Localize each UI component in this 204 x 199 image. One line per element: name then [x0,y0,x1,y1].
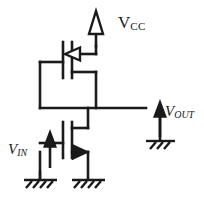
vcc-label-base: V [118,13,130,32]
ground-nmos-source-icon [72,180,105,188]
vin-label-base: V [8,141,17,157]
schematic-canvas [0,0,204,199]
nmos-arrowhead-icon [73,146,87,159]
pmos-arrowhead-icon [65,48,80,61]
vin-label-subscript: IN [17,147,27,158]
vin-source-arrow-icon [44,131,56,168]
vin-label: VIN [8,142,27,158]
ground-vin-icon [24,171,57,188]
vcc-supply-arrow-icon [89,11,103,34]
vout-label-base: V [165,103,174,119]
ground-vout-icon [146,141,175,149]
vcc-label: VCC [118,14,146,32]
vcc-label-subscript: CC [130,20,145,32]
circuit-diagram: VCC VIN VOUT [0,0,204,199]
vout-label: VOUT [165,104,194,120]
vout-label-subscript: OUT [174,109,194,120]
